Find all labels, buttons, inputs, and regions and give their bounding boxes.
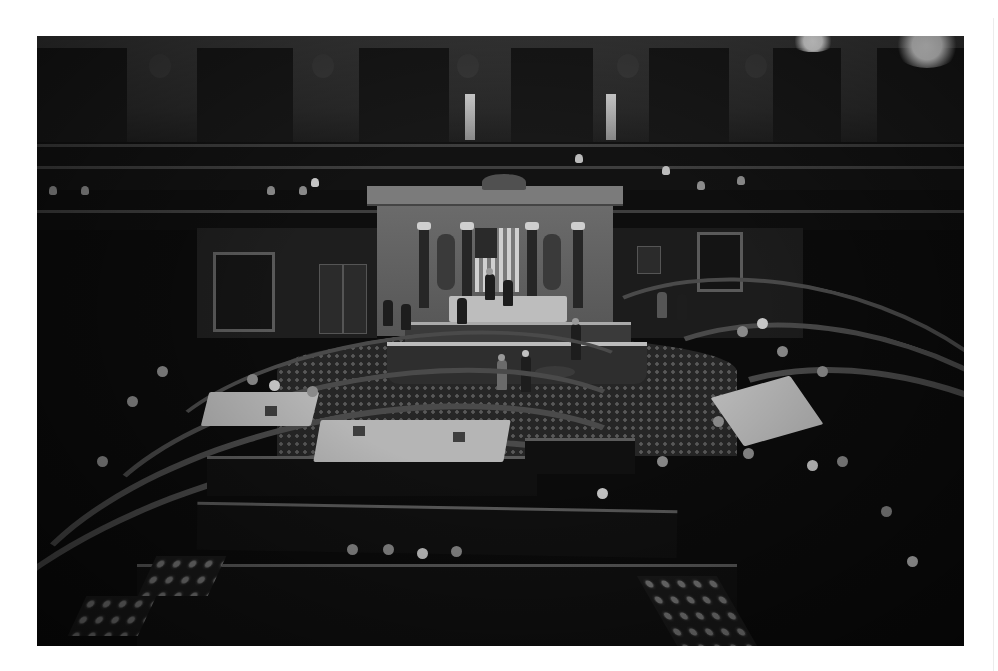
house-chamber-photo <box>37 36 964 646</box>
page-edge-line <box>993 18 994 671</box>
photo-vignette <box>37 36 964 646</box>
